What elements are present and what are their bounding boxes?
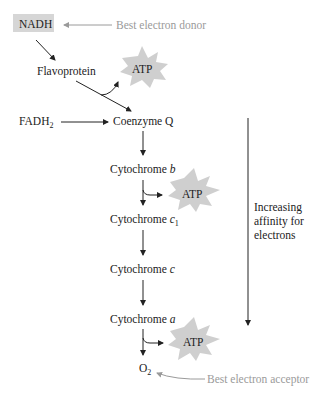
node-fadh2: FADH2 [19, 116, 53, 130]
node-coenzyme-q: Coenzyme Q [113, 116, 173, 128]
atp-label-3: ATP [183, 337, 203, 349]
node-cytochrome-b: Cytochrome b [110, 164, 175, 176]
affinity-label-line2: affinity for [254, 216, 304, 228]
atp-label-1: ATP [132, 64, 152, 76]
node-cytochrome-c: Cytochrome c [110, 264, 175, 276]
donor-label: Best electron donor [116, 20, 206, 32]
node-cytochrome-c1: Cytochrome c1 [110, 214, 179, 228]
node-flavoprotein: Flavoprotein [37, 66, 96, 78]
node-o2: O2 [139, 363, 151, 377]
arrows-layer [0, 0, 323, 399]
atp-label-2: ATP [182, 189, 202, 201]
acceptor-label: Best electron acceptor [207, 374, 309, 386]
node-cytochrome-a: Cytochrome a [110, 314, 175, 326]
affinity-label-line1: Increasing [254, 202, 302, 214]
affinity-label-line3: electrons [254, 230, 296, 242]
node-nadh: NADH [19, 19, 52, 31]
